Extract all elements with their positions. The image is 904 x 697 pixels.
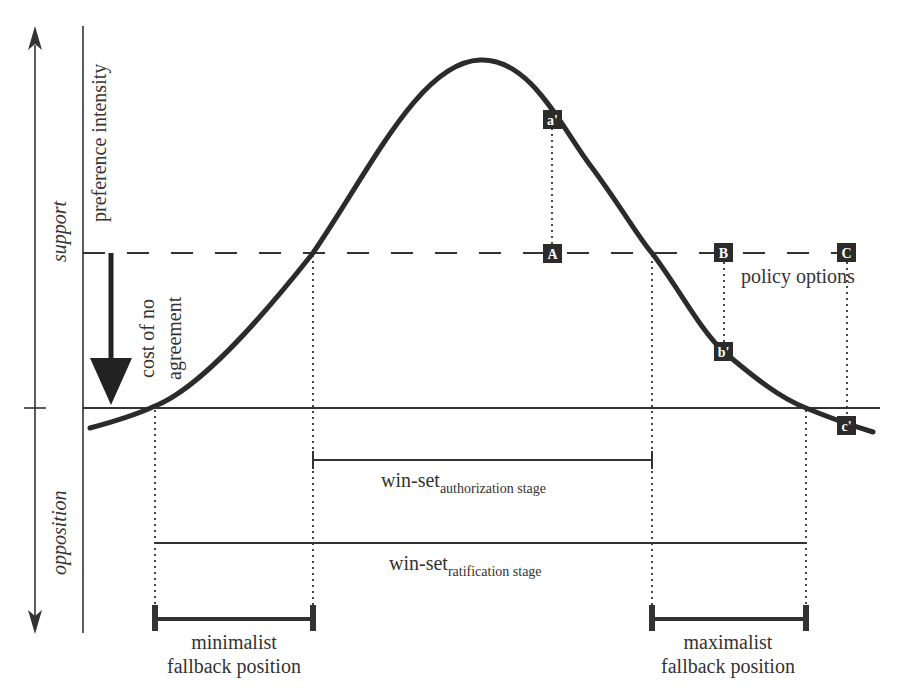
down-arrow-icon bbox=[90, 358, 132, 405]
winset-authorization-label: win-setauthorization stage bbox=[381, 469, 546, 496]
curve-point-a-prime: a' bbox=[543, 110, 562, 129]
preference-intensity-label: preference intensity bbox=[88, 64, 111, 222]
policy-options-label: policy options bbox=[741, 265, 855, 288]
svg-text:b': b' bbox=[718, 345, 730, 360]
svg-text:B: B bbox=[719, 246, 728, 261]
preference-curve bbox=[90, 60, 873, 432]
maximalist-label-line1: maximalist bbox=[684, 631, 773, 653]
cost-label-line2: agreement bbox=[163, 296, 186, 380]
cost-of-no-agreement-arrow bbox=[90, 253, 132, 405]
svg-text:C: C bbox=[841, 246, 851, 261]
support-label: support bbox=[48, 200, 71, 262]
maximalist-fallback-bar bbox=[649, 605, 809, 631]
winset-authorization-bar bbox=[313, 451, 652, 469]
policy-point-A: A bbox=[543, 244, 562, 263]
curve-point-b-prime: b' bbox=[714, 342, 733, 361]
svg-text:c': c' bbox=[841, 419, 851, 434]
svg-text:A: A bbox=[547, 247, 558, 262]
maximalist-label-line2: fallback position bbox=[661, 655, 795, 678]
win-set-diagram: support opposition preference intensity … bbox=[0, 0, 904, 697]
curve-point-c-prime: c' bbox=[837, 416, 856, 435]
svg-text:a': a' bbox=[547, 113, 558, 128]
winset-ratification-label: win-setratification stage bbox=[389, 552, 542, 579]
minimalist-label-line1: minimalist bbox=[191, 631, 277, 653]
cost-label-line1: cost of no bbox=[136, 299, 158, 378]
minimalist-label-line2: fallback position bbox=[167, 655, 301, 678]
support-opposition-axis bbox=[24, 26, 46, 634]
minimalist-fallback-bar bbox=[152, 605, 316, 631]
opposition-label: opposition bbox=[48, 491, 71, 575]
policy-point-B: B bbox=[714, 243, 733, 262]
policy-point-C: C bbox=[837, 243, 856, 262]
